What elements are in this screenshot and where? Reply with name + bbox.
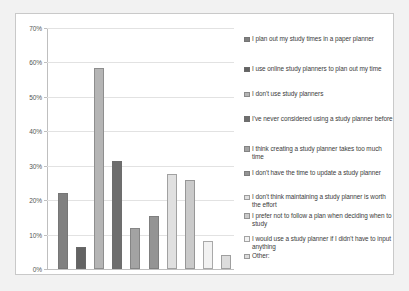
legend-item[interactable]: I don't think maintaining a study planne… (244, 193, 394, 209)
bar (76, 247, 86, 269)
y-axis-tick-label: 30% (29, 162, 42, 169)
legend-item[interactable]: I don't have the time to update a study … (244, 169, 394, 177)
legend-swatch-icon (244, 254, 250, 260)
legend-item-label: I would use a study planner if I didn't … (252, 235, 394, 251)
legend-item-label: I don't think maintaining a study planne… (252, 193, 394, 209)
legend-item-label: I don't have the time to update a study … (252, 169, 381, 177)
x-axis-line (47, 269, 234, 270)
y-axis-tick (44, 166, 47, 167)
y-axis-tick (44, 235, 47, 236)
chart-figure: 70%60%50%40%30%20%10%0% I plan out my st… (0, 0, 409, 291)
legend-swatch-icon (244, 195, 250, 201)
bar (203, 241, 213, 269)
y-axis-tick (44, 97, 47, 98)
bar (221, 255, 231, 269)
legend-item[interactable]: Other: (244, 252, 394, 260)
legend-item-label: I think creating a study planner takes t… (252, 145, 394, 161)
legend-swatch-icon (244, 116, 250, 122)
legend-item-label: I plan out my study times in a paper pla… (252, 35, 374, 43)
bar-series (48, 28, 234, 269)
legend-swatch-icon (244, 92, 250, 98)
legend-item[interactable]: I don't use study planners (244, 90, 394, 98)
y-axis-tick (44, 269, 47, 270)
legend-item-label: I use online study planners to plan out … (252, 65, 381, 73)
legend-swatch-icon (244, 213, 250, 219)
bar (130, 228, 140, 269)
y-axis-tick-label: 70% (29, 25, 42, 32)
y-axis-tick-label: 60% (29, 59, 42, 66)
legend-item[interactable]: I would use a study planner if I didn't … (244, 235, 394, 251)
legend-item[interactable]: I've never considered using a study plan… (244, 115, 394, 123)
bar (58, 193, 68, 269)
legend-swatch-icon (244, 171, 250, 177)
y-axis-tick (44, 131, 47, 132)
legend-swatch-icon (244, 236, 250, 242)
y-axis-tick (44, 28, 47, 29)
legend-swatch-icon (244, 37, 250, 43)
legend-item[interactable]: I plan out my study times in a paper pla… (244, 35, 394, 43)
y-axis-tick-label: 0% (33, 266, 42, 273)
legend-item-label: Other: (252, 252, 269, 260)
plot-area: 70%60%50%40%30%20%10%0% (47, 28, 234, 270)
legend-swatch-icon (244, 146, 250, 152)
bar (94, 68, 104, 269)
legend-item[interactable]: I prefer not to follow a plan when decid… (244, 212, 394, 228)
bar (185, 180, 195, 270)
legend-item-label: I don't use study planners (252, 90, 323, 98)
y-axis-tick-label: 50% (29, 93, 42, 100)
y-axis-tick-label: 20% (29, 197, 42, 204)
bar (149, 216, 159, 269)
y-axis-tick-label: 10% (29, 231, 42, 238)
chart-legend: I plan out my study times in a paper pla… (244, 30, 394, 270)
legend-item[interactable]: I think creating a study planner takes t… (244, 145, 394, 161)
legend-item-label: I've never considered using a study plan… (252, 115, 392, 123)
legend-item-label: I prefer not to follow a plan when decid… (252, 212, 394, 228)
legend-item[interactable]: I use online study planners to plan out … (244, 65, 394, 73)
y-axis-tick (44, 200, 47, 201)
y-axis-tick-label: 40% (29, 128, 42, 135)
legend-swatch-icon (244, 67, 250, 73)
y-axis-tick (44, 62, 47, 63)
bar (167, 174, 177, 269)
bar (112, 161, 122, 269)
chart-canvas: 70%60%50%40%30%20%10%0% I plan out my st… (15, 13, 394, 275)
